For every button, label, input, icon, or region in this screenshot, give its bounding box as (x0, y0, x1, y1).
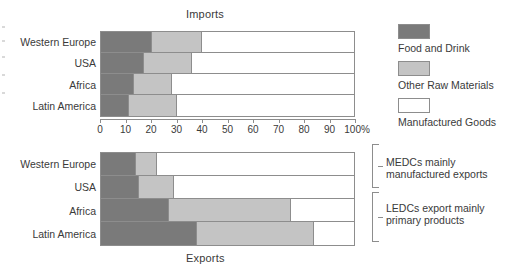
legend-swatch-food-icon (398, 24, 430, 39)
annotation-medc-line2: manufactured exports (386, 168, 488, 180)
axis-tick (177, 119, 178, 123)
exports-plot-area (100, 152, 355, 246)
legend-item-manufactured: Manufactured Goods (398, 98, 510, 128)
imports-plot-area (100, 31, 355, 117)
imports-category-label: Western Europe (20, 36, 96, 48)
legend-swatch-manufactured-icon (398, 98, 430, 113)
axis-tick (253, 119, 254, 123)
exports-bar-segment-food (101, 222, 197, 245)
bar-row (101, 32, 354, 53)
axis-tick-label: 60 (247, 124, 258, 135)
exports-bar-segment-food (101, 176, 139, 198)
category-label-row: Africa (0, 199, 100, 223)
legend-label-food: Food and Drink (398, 42, 510, 54)
category-label-row: USA (0, 53, 100, 75)
exports-bar-segment-food (101, 153, 136, 175)
axis-tick (228, 119, 229, 123)
bar-row (101, 153, 354, 176)
imports-bar-segment-food (101, 95, 129, 116)
exports-bar-segment-manu (314, 222, 354, 245)
imports-bar-segment-raw (152, 32, 203, 52)
exports-bar-segment-manu (174, 176, 354, 198)
exports-category-label: Africa (69, 205, 96, 217)
category-label-row: USA (0, 176, 100, 200)
imports-bar-segment-raw (134, 74, 172, 94)
imports-bar-segment-food (101, 74, 134, 94)
axis-tick (330, 119, 331, 123)
exports-bar-segment-raw (136, 153, 156, 175)
axis-tick-label: 40 (196, 124, 207, 135)
bar-row (101, 95, 354, 116)
axis-tick-label: 70 (273, 124, 284, 135)
legend: Food and Drink Other Raw Materials Manuf… (398, 24, 510, 135)
axis-tick-label: 90 (324, 124, 335, 135)
imports-bar-segment-food (101, 32, 152, 52)
category-label-row: Western Europe (0, 31, 100, 53)
bar-row (101, 199, 354, 222)
axis-tick-label: 10 (120, 124, 131, 135)
imports-bar-segment-food (101, 53, 144, 73)
legend-swatch-raw-materials-icon (398, 61, 430, 76)
bar-row (101, 53, 354, 74)
imports-category-label: USA (74, 57, 96, 69)
axis-tick (304, 119, 305, 123)
imports-category-label: Latin America (32, 100, 96, 112)
imports-bar-segment-raw (144, 53, 192, 73)
imports-bar-segment-raw (129, 95, 177, 116)
exports-bar-segment-raw (197, 222, 313, 245)
exports-chart-title: Exports (186, 252, 225, 264)
annotation-group: MEDCs mainly manufactured exports LEDCs … (368, 140, 510, 260)
legend-item-raw-materials: Other Raw Materials (398, 61, 510, 91)
exports-category-label: Western Europe (20, 158, 96, 170)
axis-tick-label: 30 (171, 124, 182, 135)
axis-tick-label: 100% (344, 124, 370, 135)
imports-chart-title: Imports (186, 8, 224, 20)
legend-label-manufactured: Manufactured Goods (398, 116, 510, 128)
imports-category-axis: Western Europe USA Africa Latin America (0, 31, 100, 117)
bar-row (101, 74, 354, 95)
axis-tick-label: 50 (222, 124, 233, 135)
category-label-row: Latin America (0, 223, 100, 247)
legend-label-raw-materials: Other Raw Materials (398, 79, 510, 91)
medc-brace-icon (372, 144, 379, 188)
exports-category-label: USA (74, 181, 96, 193)
exports-bar-segment-manu (157, 153, 354, 175)
chart-canvas: Imports Western Europe USA Africa Latin … (0, 0, 510, 274)
imports-bar-segment-manu (202, 32, 354, 52)
exports-bar-segment-food (101, 199, 169, 221)
exports-category-axis: Western Europe USA Africa Latin America (0, 152, 100, 246)
exports-category-label: Latin America (32, 228, 96, 240)
imports-bar-segment-manu (192, 53, 354, 73)
imports-bar-segment-manu (177, 95, 354, 116)
category-label-row: Latin America (0, 96, 100, 118)
axis-tick (202, 119, 203, 123)
exports-bar-segment-raw (169, 199, 290, 221)
annotation-ledc-line1: LEDCs export mainly (386, 202, 485, 214)
bar-row (101, 176, 354, 199)
axis-tick (355, 119, 356, 123)
annotation-medc: MEDCs mainly manufactured exports (386, 156, 488, 180)
axis-tick (100, 119, 101, 123)
exports-bar-segment-raw (139, 176, 174, 198)
axis-tick-label: 20 (145, 124, 156, 135)
annotation-ledc-line2: primary products (386, 214, 485, 226)
exports-bar-segment-manu (291, 199, 354, 221)
ledc-brace-icon (372, 192, 379, 242)
axis-tick-label: 0 (97, 124, 103, 135)
category-label-row: Western Europe (0, 152, 100, 176)
percentage-axis: 0102030405060708090100% (100, 119, 355, 141)
axis-tick-label: 80 (298, 124, 309, 135)
annotation-medc-line1: MEDCs mainly (386, 156, 455, 168)
bar-row (101, 222, 354, 245)
axis-tick (279, 119, 280, 123)
axis-tick (151, 119, 152, 123)
imports-bar-segment-manu (172, 74, 354, 94)
annotation-ledc: LEDCs export mainly primary products (386, 202, 485, 226)
category-label-row: Africa (0, 74, 100, 96)
imports-category-label: Africa (69, 79, 96, 91)
legend-item-food: Food and Drink (398, 24, 510, 54)
axis-tick (126, 119, 127, 123)
